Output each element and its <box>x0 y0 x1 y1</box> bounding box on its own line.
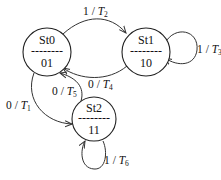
label-st1-st0: 0 / T4 <box>88 78 113 92</box>
state-diagram: St0 -------- 01 St1 -------- 10 St2 ----… <box>0 0 221 180</box>
state-output: 10 <box>140 56 152 70</box>
edge-st1-st0 <box>63 66 127 78</box>
state-st0: St0 -------- 01 <box>23 28 71 76</box>
label-st0-st1: 1 / T2 <box>83 5 108 19</box>
edge-st0-st2 <box>31 73 72 124</box>
label-st2-self: 1 / T6 <box>104 154 129 168</box>
edge-st2-self <box>82 141 106 169</box>
edge-st0-st1 <box>63 19 126 34</box>
label-st0-st2: 0 / T1 <box>6 99 31 113</box>
state-st2: St2 -------- 11 <box>72 97 116 141</box>
state-st1: St1 -------- 10 <box>122 28 170 76</box>
label-st2-st0: 0 / T5 <box>52 85 77 99</box>
state-output: 01 <box>41 56 53 70</box>
state-output: 11 <box>88 123 100 137</box>
label-st1-self: 1 / T3 <box>197 43 221 57</box>
